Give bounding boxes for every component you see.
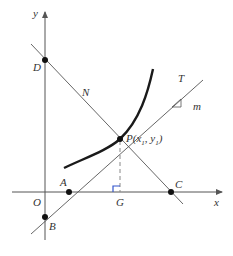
x-axis-label: x [213,196,219,208]
label-N: N [81,86,90,98]
origin-label: O [33,196,41,208]
point-B [42,214,48,220]
point-C [168,189,174,195]
label-T: T [178,72,185,84]
point-A [66,189,72,195]
label-B: B [49,220,56,232]
diagram-canvas: y x O D N T m A G C B P(x1, y1) [0,0,233,256]
y-axis-label: y [32,7,38,19]
point-P [117,136,123,142]
label-D: D [32,61,41,73]
right-angle-marker [113,186,120,192]
label-C: C [175,178,183,190]
slope-triangle [172,99,181,107]
point-D [42,57,48,63]
label-G: G [116,196,124,208]
normal-line [31,44,183,204]
curve [64,69,153,168]
label-A: A [59,176,67,188]
label-m: m [193,100,201,112]
tangent-line [31,80,203,234]
